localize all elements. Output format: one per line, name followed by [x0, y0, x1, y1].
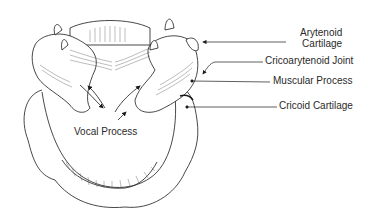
cricoid-cartilage-shape: [24, 90, 198, 208]
larynx-diagram: Arytenoid Cartilage Cricoarytenoid Joint…: [0, 0, 375, 216]
label-arytenoid-line1: Arytenoid: [300, 27, 342, 38]
label-cricoarytenoid-joint: Cricoarytenoid Joint: [265, 55, 353, 66]
label-vocal-process: Vocal Process: [74, 126, 137, 137]
vocal-process-arrows: [80, 85, 140, 120]
label-arytenoid-line2: Cartilage: [302, 38, 342, 49]
label-cricoid-cartilage: Cricoid Cartilage: [279, 100, 353, 111]
label-arytenoid-cartilage: Arytenoid Cartilage: [300, 27, 342, 49]
arytenoid-cartilages: [32, 19, 198, 112]
label-muscular-process: Muscular Process: [273, 75, 352, 86]
